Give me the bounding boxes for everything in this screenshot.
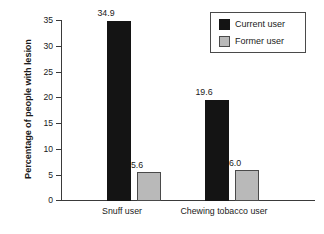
y-tick-label-10: 10 [23,145,53,154]
legend-swatch-black-icon [219,19,230,30]
legend-swatch-gray-icon [219,36,230,47]
bar-chart: Percentage of people with lesion 35 30 2… [0,0,324,234]
bar-value-snuff-former: 5.6 [123,161,151,170]
y-tick-label-5: 5 [23,171,53,180]
legend-label-former-user: Former user [235,35,284,47]
bar-value-chewing-current: 19.6 [190,88,218,97]
bar-chewing-current-user [205,100,229,201]
bar-snuff-former-user [137,172,161,201]
x-category-label-snuff: Snuff user [88,206,156,216]
y-tick-label-25: 25 [23,68,53,77]
y-tick-label-35: 35 [23,16,53,25]
legend-label-current-user: Current user [235,18,285,30]
bar-chewing-former-user [235,170,259,201]
y-tick-label-30: 30 [23,42,53,51]
y-tick-label-20: 20 [23,93,53,102]
y-tick-label-15: 15 [23,119,53,128]
legend: Current user Former user [210,12,306,53]
y-tick-label-0: 0 [23,196,53,205]
bar-value-chewing-former: 6.0 [221,159,249,168]
x-category-label-chewing-tobacco: Chewing tobacco user [158,206,290,216]
bar-value-snuff-current: 34.9 [92,9,120,18]
bar-snuff-current-user [107,21,131,201]
